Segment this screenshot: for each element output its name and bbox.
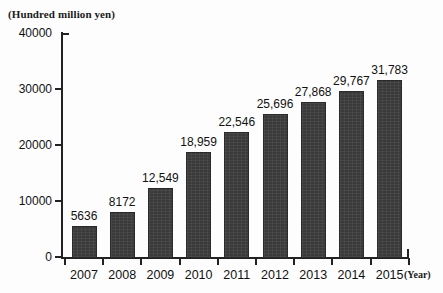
- y-axis-tick-label: 20000: [0, 138, 52, 152]
- plot-area: [62, 33, 408, 258]
- y-axis-tick: [55, 88, 62, 90]
- x-axis-title: (Year): [404, 269, 431, 280]
- x-axis-tick: [408, 258, 410, 265]
- bar: [377, 80, 402, 258]
- bar: [263, 114, 288, 258]
- y-axis-tick: [55, 256, 62, 258]
- y-axis-tick-label: 0: [0, 250, 52, 264]
- y-axis-tick-label: 30000: [0, 82, 52, 96]
- bar-chart: (Hundred million yen) 010000200003000040…: [0, 0, 443, 293]
- y-axis-tick-label: 40000: [0, 26, 52, 40]
- y-axis-tick-label: 10000: [0, 194, 52, 208]
- bar-value-label: 5636: [56, 209, 112, 223]
- x-axis-tick: [370, 258, 372, 265]
- bar-value-label: 22,546: [209, 115, 265, 129]
- bar: [186, 152, 211, 258]
- x-axis-tick: [331, 258, 333, 265]
- x-axis-tick: [179, 258, 181, 265]
- x-axis-tick: [140, 258, 142, 265]
- bar-value-label: 25,696: [247, 97, 303, 111]
- bar: [224, 132, 249, 258]
- bar: [339, 91, 364, 258]
- bar-value-label: 18,959: [171, 135, 227, 149]
- x-axis-tick: [217, 258, 219, 265]
- y-axis-tick: [55, 200, 62, 202]
- bar: [148, 188, 173, 258]
- bar-value-label: 12,549: [132, 171, 188, 185]
- bar-value-label: 8172: [94, 195, 150, 209]
- x-axis-tick: [293, 258, 295, 265]
- y-axis-unit-title: (Hundred million yen): [8, 8, 115, 20]
- bar: [110, 212, 135, 258]
- x-axis-tick: [64, 258, 66, 265]
- bar: [301, 102, 326, 258]
- x-axis-tick: [102, 258, 104, 265]
- bar: [72, 226, 97, 258]
- y-axis-tick: [55, 144, 62, 146]
- x-axis-tick: [255, 258, 257, 265]
- bar-value-label: 31,783: [362, 63, 418, 77]
